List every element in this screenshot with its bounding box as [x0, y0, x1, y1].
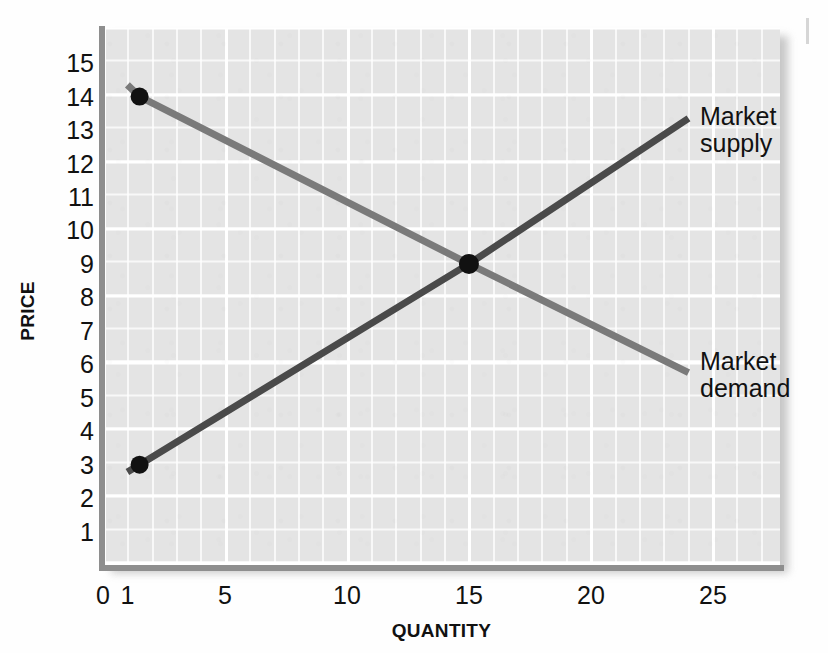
x-tick-20: 20: [561, 583, 621, 608]
y-tick-4: 4: [54, 419, 94, 444]
x-tick-5: 5: [195, 583, 255, 608]
y-tick-15: 15: [54, 51, 94, 76]
paper-texture: [103, 28, 780, 565]
x-axis-spine: [99, 565, 784, 571]
y-tick-11: 11: [54, 184, 94, 209]
y-tick-7: 7: [54, 318, 94, 343]
market-demand-label: Market demand: [700, 348, 790, 402]
y-tick-9: 9: [54, 251, 94, 276]
y-tick-6: 6: [54, 352, 94, 377]
supply-demand-chart-figure: 123456789101112131415 01510152025 PRICE …: [0, 0, 828, 653]
y-tick-8: 8: [54, 285, 94, 310]
x-tick-10: 10: [317, 583, 377, 608]
x-tick-25: 25: [683, 583, 743, 608]
y-tick-14: 14: [54, 84, 94, 109]
x-tick-15: 15: [439, 583, 499, 608]
y-axis-spine: [99, 26, 105, 571]
y-tick-12: 12: [54, 151, 94, 176]
scan-artifact-mark: [806, 18, 809, 44]
y-tick-10: 10: [54, 218, 94, 243]
y-tick-3: 3: [54, 452, 94, 477]
x-tick-1: 1: [97, 583, 157, 608]
market-supply-label: Market supply: [700, 103, 776, 157]
y-tick-labels: 123456789101112131415: [44, 0, 94, 653]
y-tick-1: 1: [54, 519, 94, 544]
y-axis-title: PRICE: [17, 266, 39, 356]
x-axis-title: QUANTITY: [103, 620, 780, 642]
y-tick-2: 2: [54, 486, 94, 511]
y-tick-13: 13: [54, 118, 94, 143]
plot-panel: [103, 28, 780, 565]
y-tick-5: 5: [54, 385, 94, 410]
